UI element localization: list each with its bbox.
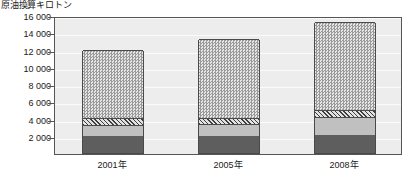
stacked-bar[interactable] xyxy=(198,40,260,154)
bar-group xyxy=(82,16,144,154)
plot-area xyxy=(54,17,402,155)
bar-chart: 原油換算キロトン 16 00014 00012 00010 0008 0006 … xyxy=(0,0,409,178)
bar-segment-segment-3-hatched[interactable] xyxy=(199,118,259,124)
y-axis-tick-label: 14 000 xyxy=(0,30,51,39)
bar-segment-segment-2-light[interactable] xyxy=(83,125,143,136)
bar-segment-segment-2-light[interactable] xyxy=(315,117,375,135)
y-axis-tick-label: 16 000 xyxy=(0,13,51,22)
bar-segment-segment-4-checkered[interactable] xyxy=(315,22,375,110)
bar-group xyxy=(314,16,376,154)
x-axis-tick-label: 2001年 xyxy=(72,160,152,170)
y-axis-tick-label: 8 000 xyxy=(0,82,51,91)
y-axis-tick-label: 4 000 xyxy=(0,117,51,126)
bar-segment-segment-4-checkered[interactable] xyxy=(83,50,143,117)
bar-segment-segment-1-dark[interactable] xyxy=(315,135,375,153)
bar-segment-segment-3-hatched[interactable] xyxy=(315,110,375,117)
stacked-bar[interactable] xyxy=(82,51,144,154)
bar-segment-segment-1-dark[interactable] xyxy=(199,136,259,153)
x-axis-tick-label: 2008年 xyxy=(304,160,384,170)
bar-segment-segment-1-dark[interactable] xyxy=(83,136,143,153)
y-axis-tick-label: 2 000 xyxy=(0,134,51,143)
y-axis-tick-label: 12 000 xyxy=(0,48,51,57)
bar-segment-segment-2-light[interactable] xyxy=(199,124,259,136)
bar-segment-segment-3-hatched[interactable] xyxy=(83,118,143,125)
bar-group xyxy=(198,16,260,154)
y-axis-tick-label: 10 000 xyxy=(0,65,51,74)
bar-segment-segment-4-checkered[interactable] xyxy=(199,39,259,117)
y-axis-title: 原油換算キロトン xyxy=(1,0,71,11)
y-axis-tick-label: 6 000 xyxy=(0,99,51,108)
x-axis-tick-label: 2005年 xyxy=(188,160,268,170)
stacked-bar[interactable] xyxy=(314,23,376,154)
